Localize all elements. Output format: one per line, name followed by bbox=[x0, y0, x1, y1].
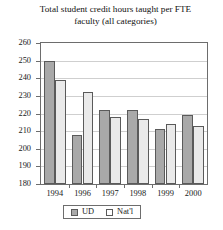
x-tick-label-1994: 1994 bbox=[41, 189, 69, 198]
y-axis: 260250240230220210200190180 bbox=[0, 42, 40, 185]
legend-entry-UD: UD bbox=[71, 208, 94, 216]
y-tick-label-230: 230 bbox=[18, 92, 31, 100]
x-tick-label-2000: 2000 bbox=[179, 189, 207, 198]
bar-group-1998 bbox=[124, 43, 152, 184]
y-tick-label-180: 180 bbox=[18, 180, 31, 188]
x-tick-mark-1998 bbox=[124, 185, 125, 188]
chart-legend: UDNat'l bbox=[63, 205, 141, 219]
bar-group-1994 bbox=[41, 43, 69, 184]
bar-Natl-1996 bbox=[83, 92, 94, 184]
bar-UD-1994 bbox=[44, 61, 55, 184]
y-tick-label-260: 260 bbox=[18, 39, 31, 47]
bars-layer bbox=[41, 43, 207, 184]
chart-title-line-1: Total student credit hours taught per FT… bbox=[40, 4, 191, 14]
bar-group-1997 bbox=[96, 43, 124, 184]
bar-UD-1999 bbox=[155, 129, 166, 184]
bar-UD-1997 bbox=[99, 110, 110, 184]
x-axis: 199419961997199819992000 bbox=[40, 185, 208, 203]
chart-title-line-2: faculty (all categories) bbox=[74, 16, 157, 26]
bar-Natl-1998 bbox=[138, 119, 149, 184]
legend-swatch-natl-icon bbox=[106, 209, 113, 216]
bar-group-2000 bbox=[179, 43, 207, 184]
y-tick-label-200: 200 bbox=[18, 145, 31, 153]
bar-UD-2000 bbox=[182, 115, 193, 184]
x-tick-mark-1996 bbox=[69, 185, 70, 188]
bar-group-1999 bbox=[152, 43, 180, 184]
y-tick-label-190: 190 bbox=[18, 162, 31, 170]
y-tick-label-240: 240 bbox=[18, 74, 31, 82]
bar-Natl-1997 bbox=[110, 117, 121, 184]
x-tick-label-1996: 1996 bbox=[69, 189, 97, 198]
legend-entry-Natl: Nat'l bbox=[106, 208, 133, 216]
bar-UD-1996 bbox=[72, 135, 83, 184]
legend-label: Nat'l bbox=[117, 208, 133, 216]
legend-swatch-ud-icon bbox=[71, 209, 78, 216]
bar-Natl-2000 bbox=[193, 126, 204, 184]
x-tick-mark-1997 bbox=[96, 185, 97, 188]
chart-title: Total student credit hours taught per FT… bbox=[18, 4, 213, 27]
x-tick-label-1998: 1998 bbox=[124, 189, 152, 198]
bar-Natl-1994 bbox=[55, 80, 66, 184]
x-tick-label-1999: 1999 bbox=[152, 189, 180, 198]
x-tick-mark-2000 bbox=[179, 185, 180, 188]
x-tick-mark-1999 bbox=[152, 185, 153, 188]
x-tick-label-1997: 1997 bbox=[96, 189, 124, 198]
bar-group-1996 bbox=[69, 43, 97, 184]
bar-UD-1998 bbox=[127, 110, 138, 184]
plot-area bbox=[40, 42, 208, 185]
y-tick-label-220: 220 bbox=[18, 110, 31, 118]
legend-label: UD bbox=[82, 208, 94, 216]
y-tick-label-210: 210 bbox=[18, 127, 31, 135]
chart-figure: Total student credit hours taught per FT… bbox=[0, 0, 223, 230]
y-tick-label-250: 250 bbox=[18, 57, 31, 65]
bar-Natl-1999 bbox=[166, 124, 177, 184]
